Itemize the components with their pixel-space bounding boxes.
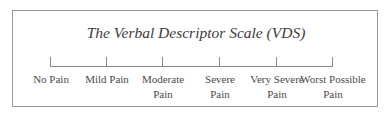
scale-label-line2: Pain [293, 87, 373, 102]
diagram-title: The Verbal Descriptor Scale (VDS) [0, 24, 392, 42]
scale-tick [276, 57, 277, 67]
scale-label-line1: Worst Possible [293, 72, 373, 87]
scale-tick [332, 57, 333, 67]
scale-tick [106, 57, 107, 67]
scale-label: Worst PossiblePain [293, 72, 373, 102]
scale-tick [219, 57, 220, 67]
scale-line [50, 66, 333, 67]
scale-tick [50, 57, 51, 67]
scale-tick [162, 57, 163, 67]
